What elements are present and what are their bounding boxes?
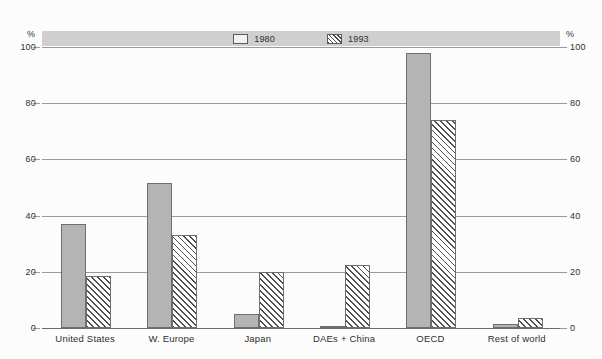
- bar-1980: [147, 183, 172, 328]
- y-tick-left-40: 40: [0, 212, 36, 221]
- tick-stub-right-100: [560, 47, 567, 48]
- x-axis-label: W. Europe: [128, 333, 214, 344]
- bar-1980: [406, 53, 431, 328]
- plot-area: 100 80 60 40 20 0 100 80 60 40 20 0: [42, 47, 560, 328]
- axis-baseline: [42, 328, 560, 329]
- tick-stub-right-20: [560, 272, 567, 273]
- y-tick-right-20: 20: [570, 268, 580, 277]
- bar-group: [474, 47, 560, 328]
- y-tick-right-80: 80: [570, 99, 580, 108]
- bar-1993: [345, 265, 370, 328]
- tick-stub-right-80: [560, 103, 567, 104]
- bar-group: [42, 47, 128, 328]
- x-axis-label: United States: [42, 333, 128, 344]
- y-axis-unit-right: %: [566, 29, 574, 39]
- x-axis-category-labels: United StatesW. EuropeJapanDAEs + ChinaO…: [42, 333, 560, 353]
- y-tick-right-100: 100: [570, 43, 586, 52]
- tick-stub-right-60: [560, 159, 567, 160]
- y-tick-right-40: 40: [570, 212, 580, 221]
- bar-1993: [259, 272, 284, 328]
- bar-1993: [518, 318, 543, 328]
- bar-1980: [61, 224, 86, 328]
- y-tick-left-60: 60: [0, 155, 36, 164]
- bar-1993: [86, 276, 111, 328]
- bar-1993: [431, 120, 456, 328]
- legend-item-1980: 1980: [233, 34, 275, 44]
- y-tick-right-0: 0: [570, 324, 575, 333]
- y-axis-unit-left: %: [27, 29, 35, 39]
- legend-item-1993: 1993: [327, 34, 369, 44]
- bar-series-container: [42, 47, 560, 328]
- bar-group: [128, 47, 214, 328]
- bar-group: [301, 47, 387, 328]
- tick-stub-right-40: [560, 216, 567, 217]
- legend-label-1980: 1980: [254, 34, 275, 44]
- bar-1993: [172, 235, 197, 328]
- y-tick-right-60: 60: [570, 155, 580, 164]
- y-tick-left-80: 80: [0, 99, 36, 108]
- bar-1980: [493, 324, 518, 328]
- x-axis-label: Rest of world: [474, 333, 560, 344]
- solid-gray-swatch-icon: [233, 34, 248, 44]
- bar-1980: [320, 326, 345, 328]
- x-axis-label: Japan: [215, 333, 301, 344]
- bar-group: [215, 47, 301, 328]
- chart-legend: 1980 1993: [42, 31, 560, 46]
- legend-label-1993: 1993: [348, 34, 369, 44]
- y-tick-left-20: 20: [0, 268, 36, 277]
- bar-chart: 1980 1993 % % 100 80 60: [0, 0, 602, 359]
- tick-stub-right-0: [560, 328, 567, 329]
- y-tick-left-0: 0: [0, 324, 36, 333]
- bar-1980: [234, 314, 259, 328]
- bar-group: [387, 47, 473, 328]
- x-axis-label: DAEs + China: [301, 333, 387, 344]
- y-tick-left-100: 100: [0, 43, 36, 52]
- x-axis-label: OECD: [387, 333, 473, 344]
- hatched-swatch-icon: [327, 34, 342, 44]
